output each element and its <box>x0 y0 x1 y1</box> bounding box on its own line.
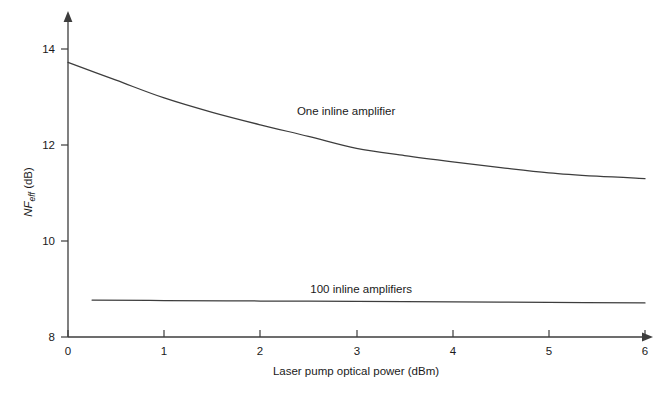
y-axis-title-main: NF <box>22 201 34 217</box>
annotation-one-inline-amplifier: One inline amplifier <box>297 105 396 117</box>
x-tick-label-4: 4 <box>450 345 457 357</box>
y-axis-arrow-icon <box>64 11 73 22</box>
y-axis-title-group: NFeff (dB) <box>22 167 37 217</box>
x-tick-label-1: 1 <box>161 345 167 357</box>
x-tick-label-5: 5 <box>546 345 552 357</box>
x-axis-ticks: 0 1 2 3 4 5 6 <box>65 330 648 357</box>
data-series-group <box>68 62 645 302</box>
x-tick-label-0: 0 <box>65 345 71 357</box>
y-axis-ticks: 14 12 10 8 <box>42 43 68 343</box>
x-tick-label-6: 6 <box>642 345 648 357</box>
y-tick-label-12: 12 <box>42 139 55 151</box>
chart-figure: 14 12 10 8 0 1 2 3 4 5 6 Laser pump opti… <box>0 0 668 393</box>
series-one-inline-amplifier-line <box>68 62 645 178</box>
y-tick-label-10: 10 <box>42 235 55 247</box>
x-axis-title: Laser pump optical power (dBm) <box>273 365 439 377</box>
line-chart-svg: 14 12 10 8 0 1 2 3 4 5 6 Laser pump opti… <box>0 0 668 393</box>
y-tick-label-8: 8 <box>49 331 55 343</box>
x-axis-arrow-icon <box>642 333 653 342</box>
y-axis-title: NFeff (dB) <box>22 167 37 217</box>
series-100-inline-amplifiers-line <box>92 300 645 303</box>
y-axis-title-unit: (dB) <box>22 167 34 192</box>
x-tick-label-2: 2 <box>257 345 263 357</box>
y-tick-label-14: 14 <box>42 43 55 55</box>
x-tick-label-3: 3 <box>354 345 360 357</box>
annotation-100-inline-amplifiers: 100 inline amplifiers <box>310 283 412 295</box>
